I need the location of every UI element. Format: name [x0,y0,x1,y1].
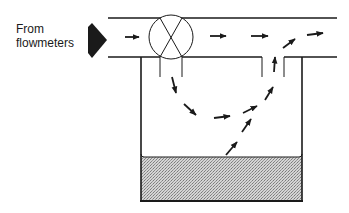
inlet-label-line2: flowmeters [16,36,74,50]
flow-arrow-icon [172,77,176,93]
liquid-surface [141,154,302,157]
flow-arrow-icon [283,39,295,48]
flow-arrow-icon [214,116,230,118]
flow-arrow-icon [243,106,257,113]
flow-arrow-icon [184,104,196,115]
flow-arrow-icon [307,33,323,35]
flow-arrow-icon [242,119,251,132]
flow-arrow-icon [226,142,237,155]
valve-icon [149,15,193,59]
flow-arrow-icon [274,57,275,72]
tank-liquid [141,157,302,201]
flow-arrow-icon [265,87,273,100]
inlet-label-line1: From [16,22,44,36]
inlet-arrow-icon [88,23,107,58]
diagram-drawing [0,0,349,213]
flow-diagram: From flowmeters [0,0,349,213]
